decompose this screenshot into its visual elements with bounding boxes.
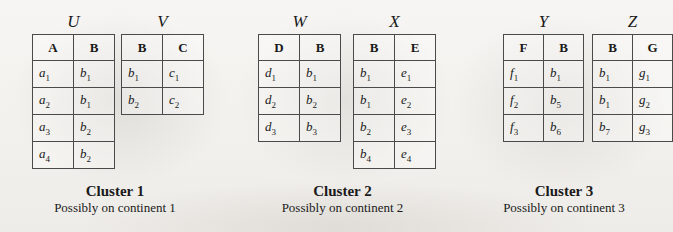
- cell-subscript: 3: [646, 127, 651, 137]
- cell-subscript: 2: [514, 100, 519, 110]
- table-cell: e3: [395, 115, 436, 142]
- cluster-2: WDBd1b1d2b2d3b3XBEb1e1b1e2b2e3b4e4Cluste…: [230, 0, 455, 232]
- cell-subscript: 1: [272, 73, 277, 83]
- cell-subscript: 1: [46, 73, 51, 83]
- table-row: b2c2: [122, 88, 204, 115]
- cell-subscript: 2: [646, 100, 651, 110]
- table-row: f2b5: [504, 88, 584, 115]
- cell-subscript: 2: [87, 154, 92, 164]
- caption-title: Cluster 1: [0, 182, 230, 200]
- table-row: a4b2: [33, 142, 115, 169]
- table-cell: f2: [504, 88, 544, 115]
- table-block-y: YFBf1b1f2b5f3b6: [503, 12, 584, 142]
- cluster-diagram: UABa1b1a2b1a3b2a4b2VBCb1c1b2c2Cluster 1P…: [0, 0, 673, 232]
- table-block-w: WDBd1b1d2b2d3b3: [258, 12, 341, 142]
- table-header-row: DB: [259, 35, 341, 61]
- cell-subscript: 2: [87, 127, 92, 137]
- cell-subscript: 3: [407, 127, 412, 137]
- table-block-u: UABa1b1a2b1a3b2a4b2: [32, 12, 115, 169]
- table-cell: b2: [354, 115, 395, 142]
- cell-subscript: 3: [514, 127, 519, 137]
- cell-subscript: 1: [313, 73, 318, 83]
- table-cell: g3: [633, 115, 673, 142]
- cell-subscript: 2: [175, 100, 180, 110]
- column-header: B: [74, 35, 115, 61]
- table-header-row: BE: [354, 35, 436, 61]
- cell-subscript: 1: [606, 100, 611, 110]
- column-header: F: [504, 35, 544, 61]
- table-row: d1b1: [259, 61, 341, 88]
- table-header-row: BG: [593, 35, 673, 61]
- cell-subscript: 1: [514, 73, 519, 83]
- table-row: b1e2: [354, 88, 436, 115]
- column-header: G: [633, 35, 673, 61]
- table-row: a2b1: [33, 88, 115, 115]
- cluster-3-tables: YFBf1b1f2b5f3b6ZBGb1g1b1g2b7g3: [455, 0, 673, 142]
- cell-subscript: 3: [313, 127, 318, 137]
- cell-subscript: 3: [272, 127, 277, 137]
- table-row: d3b3: [259, 115, 341, 142]
- caption-subtitle: Possibly on continent 3: [455, 200, 673, 216]
- column-header: C: [163, 35, 204, 61]
- column-header: B: [593, 35, 633, 61]
- table-label-y: Y: [539, 12, 548, 34]
- table-header-row: FB: [504, 35, 584, 61]
- column-header: A: [33, 35, 74, 61]
- relation-table-z: BGb1g1b1g2b7g3: [592, 34, 673, 142]
- cluster-1: UABa1b1a2b1a3b2a4b2VBCb1c1b2c2Cluster 1P…: [0, 0, 230, 232]
- cell-subscript: 2: [367, 127, 372, 137]
- column-header: B: [543, 35, 583, 61]
- table-cell: a2: [33, 88, 74, 115]
- table-cell: e2: [395, 88, 436, 115]
- cell-subscript: 1: [606, 73, 611, 83]
- table-cell: e4: [395, 142, 436, 169]
- relation-table-v: BCb1c1b2c2: [121, 34, 204, 115]
- table-row: b1c1: [122, 61, 204, 88]
- table-cell: f1: [504, 61, 544, 88]
- cell-subscript: 3: [46, 127, 51, 137]
- table-label-w: W: [292, 12, 306, 34]
- table-cell: f3: [504, 115, 544, 142]
- table-cell: b5: [543, 88, 583, 115]
- cell-subscript: 4: [367, 154, 372, 164]
- table-row: b1g1: [593, 61, 673, 88]
- table-cell: e1: [395, 61, 436, 88]
- table-cell: b1: [300, 61, 341, 88]
- cluster-3: YFBf1b1f2b5f3b6ZBGb1g1b1g2b7g3Cluster 3P…: [455, 0, 673, 232]
- table-cell: b2: [74, 115, 115, 142]
- cell-subscript: 1: [646, 73, 651, 83]
- table-label-v: V: [157, 12, 167, 34]
- table-cell: b1: [593, 88, 633, 115]
- cell-subscript: 6: [556, 127, 561, 137]
- cell-subscript: 1: [367, 73, 372, 83]
- table-cell: c1: [163, 61, 204, 88]
- table-block-x: XBEb1e1b1e2b2e3b4e4: [353, 12, 436, 169]
- cell-subscript: 4: [407, 154, 412, 164]
- table-row: f3b6: [504, 115, 584, 142]
- cell-subscript: 2: [407, 100, 412, 110]
- cell-subscript: 5: [556, 100, 561, 110]
- cluster-1-tables: UABa1b1a2b1a3b2a4b2VBCb1c1b2c2: [0, 0, 230, 169]
- table-cell: b2: [74, 142, 115, 169]
- relation-table-u: ABa1b1a2b1a3b2a4b2: [32, 34, 115, 169]
- column-header: D: [259, 35, 300, 61]
- table-label-z: Z: [628, 12, 637, 34]
- table-block-z: ZBGb1g1b1g2b7g3: [592, 12, 673, 142]
- table-row: b1g2: [593, 88, 673, 115]
- table-cell: b7: [593, 115, 633, 142]
- table-cell: b2: [122, 88, 163, 115]
- table-cell: a3: [33, 115, 74, 142]
- table-row: a3b2: [33, 115, 115, 142]
- caption-title: Cluster 3: [455, 182, 673, 200]
- table-cell: b6: [543, 115, 583, 142]
- table-label-x: X: [389, 12, 399, 34]
- table-cell: c2: [163, 88, 204, 115]
- column-header: E: [395, 35, 436, 61]
- table-header-row: BC: [122, 35, 204, 61]
- caption-subtitle: Possibly on continent 1: [0, 200, 230, 216]
- cluster-2-tables: WDBd1b1d2b2d3b3XBEb1e1b1e2b2e3b4e4: [230, 0, 455, 169]
- cell-subscript: 1: [556, 73, 561, 83]
- table-row: b1e1: [354, 61, 436, 88]
- cell-subscript: 1: [87, 73, 92, 83]
- table-cell: b1: [74, 61, 115, 88]
